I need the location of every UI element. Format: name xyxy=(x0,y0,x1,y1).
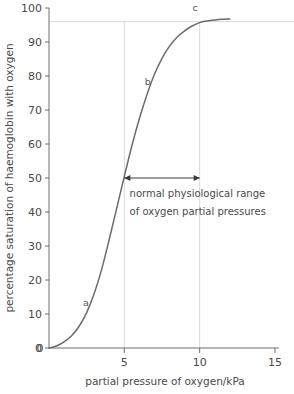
point-label-b: b xyxy=(145,76,151,87)
y-tick-label: 10 xyxy=(28,308,42,321)
x-axis-title: partial pressure of oxygen/kPa xyxy=(85,375,245,387)
y-tick-label: 90 xyxy=(28,36,42,49)
y-tick-label: 70 xyxy=(28,104,42,117)
x-axis-ticks xyxy=(124,348,275,353)
x-tick-label: 15 xyxy=(268,356,282,369)
x-tick-label: 5 xyxy=(121,356,128,369)
x-tick-label: 10 xyxy=(193,356,207,369)
y-tick-label: 80 xyxy=(28,70,42,83)
y-axis-title: percentage saturation of haemoglobin wit… xyxy=(3,43,15,312)
y-tick-label: 30 xyxy=(28,240,42,253)
range-arrow-head-left xyxy=(124,175,130,181)
y-axis-tick-labels: 0102030405060708090100 xyxy=(21,2,42,355)
y-tick-label: 60 xyxy=(28,138,42,151)
y-tick-label: 40 xyxy=(28,206,42,219)
normal-range-arrow xyxy=(124,175,199,181)
x-tick-label: 0 xyxy=(37,342,44,355)
range-arrow-head-right xyxy=(194,175,200,181)
y-tick-label: 100 xyxy=(21,2,42,15)
range-caption-line1: normal physiological range xyxy=(130,188,266,199)
point-label-c: c xyxy=(193,2,198,13)
chart-svg: 0102030405060708090100 051015 a b c norm… xyxy=(0,0,294,394)
y-tick-label: 20 xyxy=(28,274,42,287)
range-caption-line2: of oxygen partial pressures xyxy=(130,206,266,217)
oxygen-dissociation-chart: 0102030405060708090100 051015 a b c norm… xyxy=(0,0,294,394)
x-axis-tick-labels: 051015 xyxy=(37,342,283,369)
y-axis-ticks xyxy=(45,8,49,348)
dissociation-curve xyxy=(49,19,230,348)
point-label-a: a xyxy=(83,297,89,308)
y-tick-label: 50 xyxy=(28,172,42,185)
